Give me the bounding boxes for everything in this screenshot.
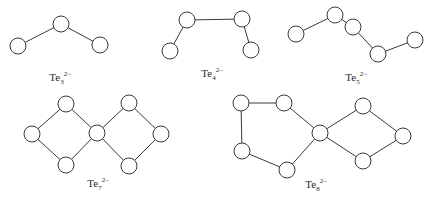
element-symbol: Te (49, 71, 60, 83)
structure-te5 (288, 7, 423, 62)
atom-te (58, 157, 74, 173)
atom-te (162, 43, 178, 59)
atom-te (10, 38, 26, 54)
atom-te (121, 95, 137, 111)
atom-te (355, 153, 371, 169)
formula-label-te8: Te82– (305, 177, 326, 193)
atom-te (233, 95, 249, 111)
atom-te (24, 126, 40, 142)
structure-te7 (24, 95, 169, 174)
element-symbol: Te (345, 71, 356, 83)
atom-te (53, 16, 69, 32)
atom-te (355, 98, 371, 114)
formula-label-te7: Te72– (87, 176, 108, 192)
atom-count: 7 (98, 184, 102, 192)
atom-te (58, 96, 74, 112)
structure-diagram (0, 0, 432, 197)
atom-te (345, 19, 361, 35)
atom-te (276, 95, 292, 111)
charge: 2– (320, 177, 327, 185)
atom-count: 3 (60, 78, 64, 86)
formula-label-te3: Te32– (49, 70, 70, 86)
atom-te (153, 126, 169, 142)
atom-te (89, 125, 105, 141)
structure-te8 (233, 95, 411, 178)
atom-count: 4 (212, 74, 216, 82)
atom-te (92, 37, 108, 53)
element-symbol: Te (201, 67, 212, 79)
formula-label-te4: Te42– (201, 66, 222, 82)
atom-te (243, 42, 259, 58)
charge: 2– (216, 66, 223, 74)
structure-te3 (10, 16, 108, 54)
atom-count: 8 (316, 185, 320, 193)
element-symbol: Te (305, 178, 316, 190)
atom-te (234, 143, 250, 159)
atom-te (179, 12, 195, 28)
atom-te (234, 11, 250, 27)
atom-te (407, 32, 423, 48)
charge: 2– (102, 176, 109, 184)
structure-te4 (162, 11, 259, 59)
element-symbol: Te (87, 177, 98, 189)
charge: 2– (64, 70, 71, 78)
atom-te (370, 46, 386, 62)
charge: 2– (360, 70, 367, 78)
formula-label-te5: Te52– (345, 70, 366, 86)
atom-count: 5 (356, 78, 360, 86)
atom-te (312, 125, 328, 141)
atom-te (288, 26, 304, 42)
atom-te (121, 158, 137, 174)
atom-te (395, 128, 411, 144)
atom-te (279, 162, 295, 178)
atom-te (327, 7, 343, 23)
